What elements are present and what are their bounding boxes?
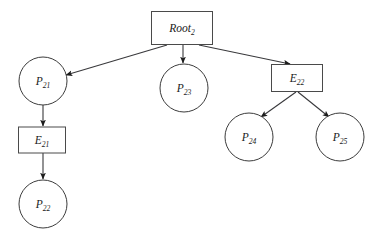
node-p24[interactable]: P24 [225, 113, 273, 161]
edge-e22-to-p25 [298, 92, 329, 117]
node-e21[interactable]: E21 [19, 127, 66, 153]
node-p23[interactable]: P23 [160, 64, 208, 112]
node-root2[interactable]: Root2 [152, 12, 213, 45]
tree-diagram: Root2P21E21P22P23E22P24P25 [0, 0, 382, 235]
node-p25[interactable]: P25 [316, 113, 364, 161]
diagram-canvas: Root2P21E21P22P23E22P24P25 [0, 0, 382, 235]
edge-e22-to-p24 [261, 92, 296, 117]
edge-root2-to-e22 [199, 45, 290, 64]
node-p21[interactable]: P21 [19, 57, 67, 105]
node-e22[interactable]: E22 [272, 65, 323, 92]
node-p22[interactable]: P22 [19, 180, 67, 228]
edge-root2-to-p21 [66, 45, 167, 75]
node-layer: Root2P21E21P22P23E22P24P25 [19, 12, 365, 229]
